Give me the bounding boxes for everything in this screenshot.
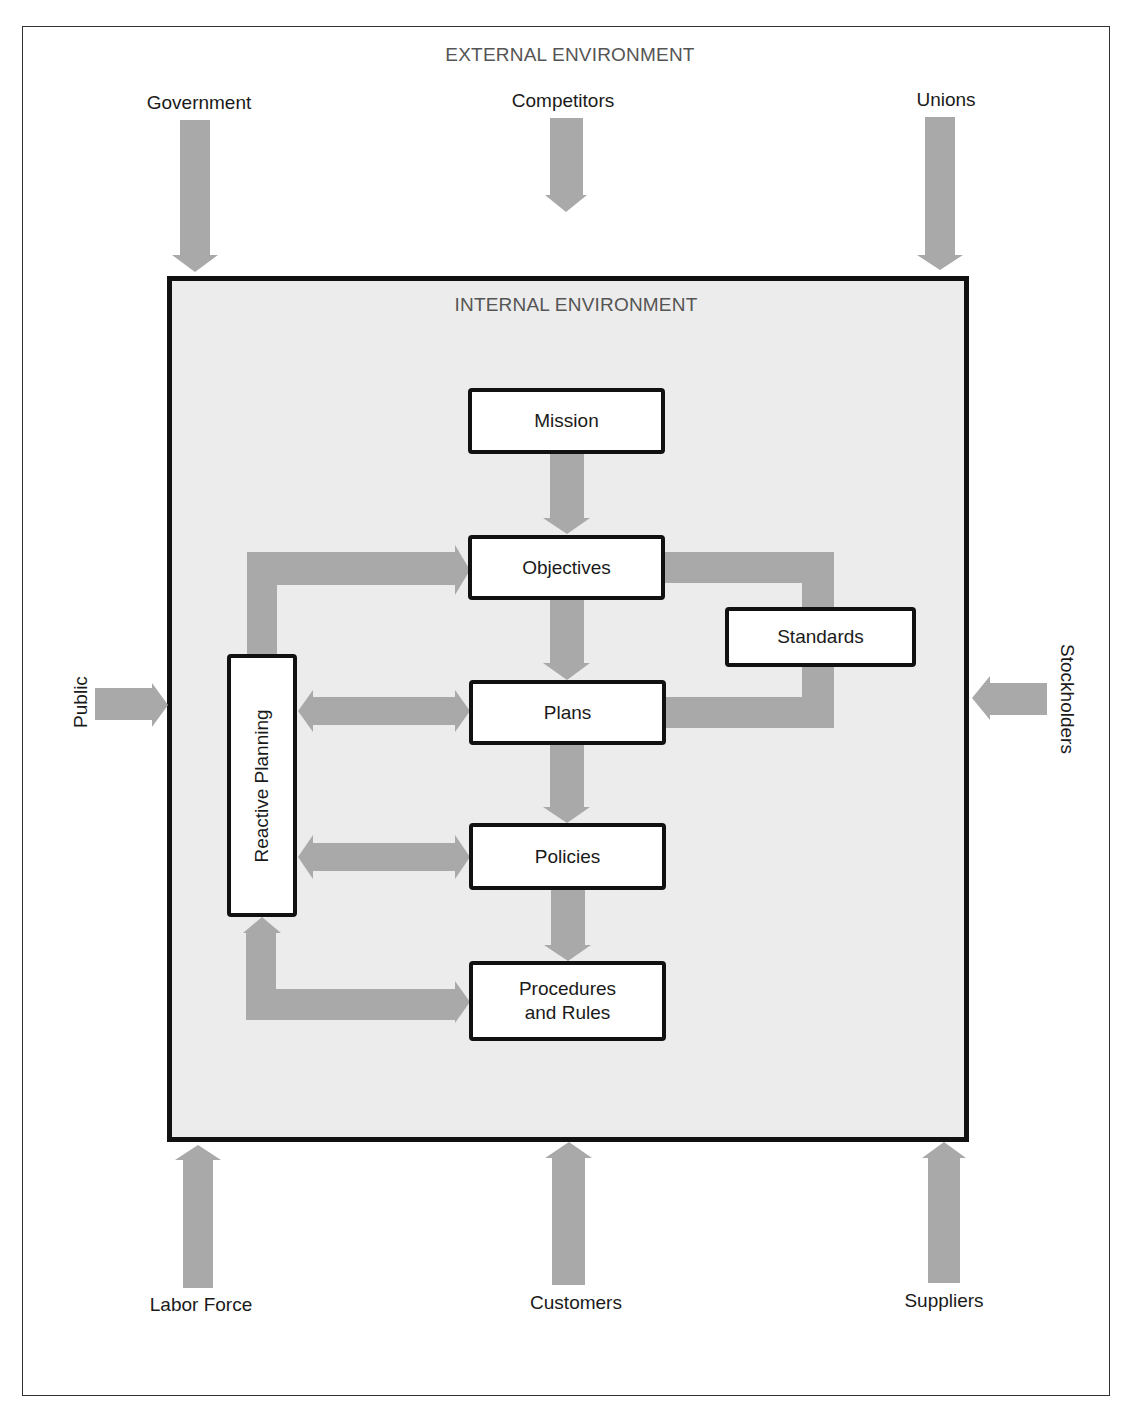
reactive-plans-double-arrow <box>298 690 470 732</box>
reactive-planning-box: Reactive Planning <box>227 654 297 917</box>
mission-box: Mission <box>468 388 665 454</box>
reactive-to-objectives-arrow <box>247 545 470 655</box>
suppliers-arrow <box>922 1142 966 1283</box>
procedures-reactive-arrow <box>243 917 470 1023</box>
plans-to-policies-arrow <box>543 744 590 823</box>
external-environment-title: EXTERNAL ENVIRONMENT <box>445 44 694 66</box>
unions-label: Unions <box>916 89 975 111</box>
labor-force-arrow <box>175 1145 221 1288</box>
customers-arrow <box>545 1142 592 1285</box>
standards-box: Standards <box>725 607 916 667</box>
reactive-policies-double-arrow <box>298 835 470 879</box>
policies-to-procedures-arrow <box>544 888 591 961</box>
competitors-arrow <box>545 118 587 212</box>
labor-force-label: Labor Force <box>150 1294 252 1316</box>
customers-label: Customers <box>530 1292 622 1314</box>
plans-box: Plans <box>469 680 666 745</box>
government-label: Government <box>147 92 252 114</box>
policies-box: Policies <box>469 823 666 890</box>
objectives-box: Objectives <box>468 535 665 600</box>
competitors-label: Competitors <box>512 90 614 112</box>
stockholders-label: Stockholders <box>1056 644 1078 754</box>
suppliers-label: Suppliers <box>904 1290 983 1312</box>
unions-arrow <box>917 117 963 270</box>
government-arrow <box>172 120 218 272</box>
objectives-to-plans-arrow <box>543 598 590 680</box>
public-arrow <box>95 683 168 727</box>
reactive-planning-label: Reactive Planning <box>251 709 273 862</box>
mission-to-objectives-arrow <box>543 452 590 534</box>
stockholders-arrow <box>972 676 1047 720</box>
procedures-and-rules-box: Procedures and Rules <box>469 961 666 1041</box>
internal-environment-title: INTERNAL ENVIRONMENT <box>455 294 698 316</box>
public-label: Public <box>70 676 92 728</box>
